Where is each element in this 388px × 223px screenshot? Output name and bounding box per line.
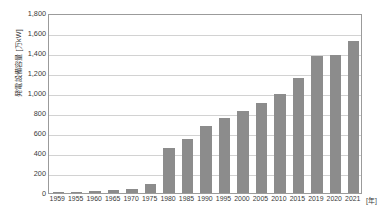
x-tick-label: 1990	[197, 195, 212, 203]
x-tick-label: 2021	[345, 195, 360, 203]
bar	[330, 55, 341, 194]
x-tick-label: 1955	[68, 195, 83, 203]
x-tick-label: 1985	[179, 195, 194, 203]
bar	[274, 94, 285, 193]
y-tick-label: 800	[6, 110, 46, 117]
x-tick-label: 1959	[50, 195, 65, 203]
bar	[219, 118, 230, 193]
y-tick-label: 1,600	[6, 30, 46, 37]
x-tick-label: 1980	[160, 195, 175, 203]
chart-figure: 発電設備容量 [万kW] 02004006008001,0001,2001,40…	[0, 0, 388, 223]
plot-area	[48, 14, 362, 194]
y-tick-label: 200	[6, 170, 46, 177]
x-axis-unit-label: [年]	[366, 195, 377, 205]
bar	[108, 190, 119, 193]
y-tick-label: 0	[6, 190, 46, 197]
y-tick-label: 600	[6, 130, 46, 137]
bar	[163, 148, 174, 193]
bar	[256, 103, 267, 193]
bar	[71, 192, 82, 193]
bar-series	[49, 15, 361, 193]
bar	[348, 41, 359, 193]
x-tick-label: 2010	[271, 195, 286, 203]
y-axis-tick-labels: 02004006008001,0001,2001,4001,6001,800	[6, 14, 46, 194]
x-tick-label: 1970	[123, 195, 138, 203]
bar	[311, 56, 322, 193]
bar	[145, 184, 156, 193]
bar	[293, 78, 304, 193]
x-tick-label: 1995	[216, 195, 231, 203]
y-tick-label: 1,000	[6, 90, 46, 97]
bar	[89, 191, 100, 193]
x-tick-label: 2020	[327, 195, 342, 203]
bar	[200, 126, 211, 193]
x-tick-label: 1960	[87, 195, 102, 203]
x-tick-label: 2005	[253, 195, 268, 203]
x-tick-label: 2000	[234, 195, 249, 203]
bar	[182, 139, 193, 193]
x-axis-tick-labels: 1959195519601965197019751980198519901995…	[48, 195, 362, 207]
bar	[237, 111, 248, 193]
y-tick-label: 1,800	[6, 10, 46, 17]
x-tick-label: 1965	[105, 195, 120, 203]
y-tick-label: 1,200	[6, 70, 46, 77]
y-tick-label: 400	[6, 150, 46, 157]
x-tick-label: 2019	[308, 195, 323, 203]
x-tick-label: 2015	[290, 195, 305, 203]
bar	[126, 189, 137, 193]
y-tick-label: 1,400	[6, 50, 46, 57]
bar	[53, 192, 64, 193]
x-tick-label: 1975	[142, 195, 157, 203]
